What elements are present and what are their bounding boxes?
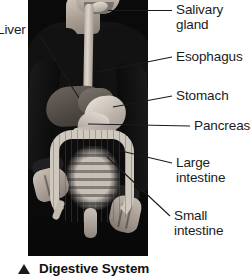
anatomy-photo [28,0,148,256]
label-small-intestine: Small intestine [174,209,223,238]
figure-caption: Digestive System [18,261,149,276]
label-pancreas: Pancreas [194,119,250,134]
label-salivary-gland: Salivary gland [176,3,223,32]
esophagus-organ [83,4,94,96]
triangle-up-icon [18,264,30,274]
label-liver: Liver [0,23,26,38]
digestive-system-figure: Liver Salivary gland Esophagus Stomach P… [0,0,252,280]
caption-text: Digestive System [39,261,149,276]
label-large-intestine: Large intestine [176,156,225,185]
small-intestine-organ [66,146,120,210]
rectum-organ [84,208,97,238]
label-esophagus: Esophagus [176,50,243,65]
label-stomach: Stomach [176,89,229,104]
